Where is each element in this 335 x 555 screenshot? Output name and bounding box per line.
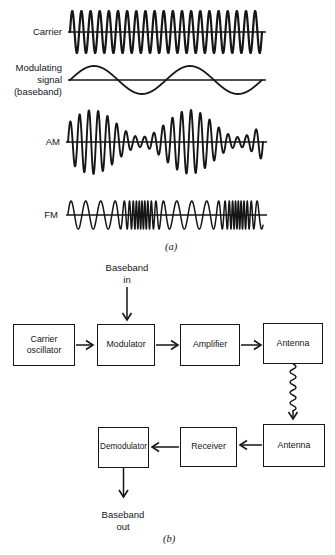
amplifier-label: Amplifier	[193, 339, 227, 350]
waveform-layer	[66, 11, 267, 229]
modulating-signal-label: Modulating signal (baseband)	[14, 62, 62, 98]
modulator-block: Modulator	[97, 324, 155, 366]
modulating-label-line2: signal	[14, 74, 62, 86]
modulating-label-line1: Modulating	[14, 62, 62, 74]
baseband-out-line1: Baseband	[93, 509, 153, 521]
baseband-in-label: Baseband in	[97, 262, 157, 286]
demodulator-block: Demodulator	[98, 427, 149, 468]
modulation-figure: Carrier Modulating signal (baseband) AM …	[0, 0, 335, 555]
antenna-tx-label: Antenna	[277, 338, 310, 349]
antenna-rx-block: Antenna	[263, 424, 325, 467]
modulator-label: Modulator	[106, 339, 145, 350]
receiver-label: Receiver	[191, 441, 226, 452]
receiver-block: Receiver	[180, 427, 237, 467]
radio-wave-squiggle	[290, 364, 296, 419]
baseband-in-line1: Baseband	[97, 262, 157, 274]
baseband-out-label: Baseband out	[93, 509, 153, 533]
modulating-label-line3: (baseband)	[14, 86, 62, 98]
amplifier-block: Amplifier	[180, 324, 240, 366]
fm-label: FM	[44, 209, 58, 221]
carrier-oscillator-block: Carrier oscillator	[13, 324, 75, 366]
panel-b-label: (b)	[163, 533, 175, 544]
baseband-out-line2: out	[93, 521, 153, 533]
antenna-tx-block: Antenna	[263, 323, 323, 364]
baseband-in-line2: in	[97, 274, 157, 286]
carrier-oscillator-label-line2: oscillator	[27, 345, 62, 356]
fm-wave	[68, 201, 263, 229]
am-label: AM	[46, 136, 60, 148]
carrier-oscillator-label-line1: Carrier	[31, 334, 58, 345]
demodulator-label: Demodulator	[100, 442, 147, 453]
antenna-rx-label: Antenna	[278, 440, 311, 451]
panel-a-label: (a)	[165, 241, 177, 252]
carrier-label: Carrier	[33, 26, 62, 38]
